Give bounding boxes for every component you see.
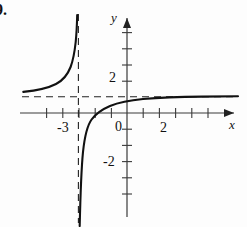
y-axis-label: y xyxy=(111,11,117,24)
x-axis-arrow-icon xyxy=(224,109,234,117)
x-axis-label: x xyxy=(229,118,235,131)
y-tick-label-negative-2: -2 xyxy=(103,155,115,169)
x-tick-label-2: 2 xyxy=(160,121,167,135)
x-tick-label-negative-3: -3 xyxy=(57,121,69,135)
y-axis-arrow-icon xyxy=(123,18,131,28)
axes-group xyxy=(20,18,234,217)
plot-svg xyxy=(0,0,247,227)
y-tick-label-2: 2 xyxy=(109,71,116,85)
origin-label: 0 xyxy=(115,120,122,134)
graph-figure: 9. y x 2 -2 0 2 -3 xyxy=(0,0,247,227)
problem-number: 9. xyxy=(0,2,7,18)
curve-left-branch xyxy=(23,15,77,92)
